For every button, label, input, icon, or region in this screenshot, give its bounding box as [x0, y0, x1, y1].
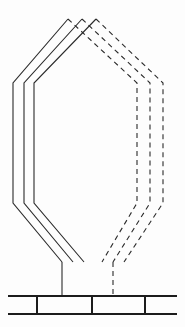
diagram-background: [0, 0, 185, 327]
technical-diagram-canvas: [0, 0, 185, 327]
figure-container: [0, 0, 185, 327]
